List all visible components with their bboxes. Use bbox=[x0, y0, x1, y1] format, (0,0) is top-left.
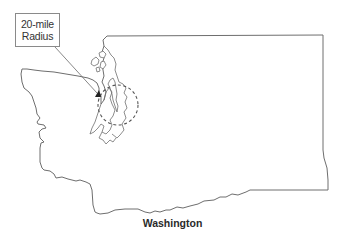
san-juan-island bbox=[91, 57, 99, 66]
radius-callout-box: 20-mile Radius bbox=[15, 13, 60, 47]
small-island bbox=[96, 67, 100, 72]
callout-line-2: Radius bbox=[22, 30, 53, 42]
callout-line-1: 20-mile bbox=[21, 18, 54, 30]
map-title: Washington bbox=[0, 217, 345, 229]
map-figure: 20-mile Radius Washington bbox=[0, 0, 345, 240]
state-outline-washington bbox=[21, 35, 328, 214]
